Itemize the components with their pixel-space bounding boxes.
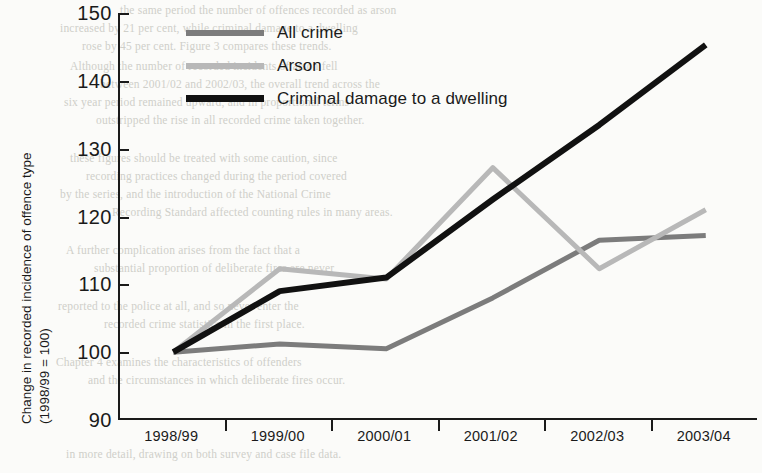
legend-item: All crime [186, 16, 508, 49]
x-tick-mark [544, 420, 546, 431]
legend-swatch [186, 30, 264, 36]
x-tick-mark [331, 420, 333, 431]
x-tick-label: 2001/02 [464, 428, 518, 444]
y-axis-tick-labels: 15014013012011010090 [62, 0, 112, 440]
x-tick-label: 2000/01 [357, 428, 411, 444]
y-axis-title: Change in recorded incidence of offence … [0, 0, 56, 440]
x-tick-mark [438, 420, 440, 431]
y-axis-title-line2: (1998/99 = 100) [36, 328, 53, 424]
legend-item: Arson [186, 49, 508, 82]
y-tick-label: 110 [66, 273, 112, 296]
x-tick-label: 1998/99 [144, 428, 198, 444]
x-tick-label: 2003/04 [677, 428, 731, 444]
y-tick-label: 120 [66, 205, 112, 228]
y-tick-label: 140 [66, 69, 112, 92]
x-tick-label: 2002/03 [570, 428, 624, 444]
x-tick-label: 1999/00 [251, 428, 305, 444]
legend-label: All crime [277, 23, 343, 43]
legend-label: Criminal damage to a dwelling [277, 89, 508, 109]
legend-swatch [186, 63, 264, 69]
y-tick-label: 100 [66, 341, 112, 364]
legend-item: Criminal damage to a dwelling [186, 82, 508, 115]
x-tick-mark [225, 420, 227, 431]
x-tick-mark [651, 420, 653, 431]
y-tick-label: 130 [66, 137, 112, 160]
legend: All crimeArsonCriminal damage to a dwell… [186, 16, 508, 115]
y-axis-title-line1: Change in recorded incidence of offence … [18, 153, 35, 424]
bleed-line: in more detail, drawing on both survey a… [66, 448, 341, 460]
figure-container: the same period the number of offences r… [0, 0, 762, 473]
legend-label: Arson [277, 56, 322, 76]
y-tick-label: 150 [66, 2, 112, 25]
y-tick-label: 90 [66, 409, 112, 432]
legend-swatch [186, 95, 264, 102]
